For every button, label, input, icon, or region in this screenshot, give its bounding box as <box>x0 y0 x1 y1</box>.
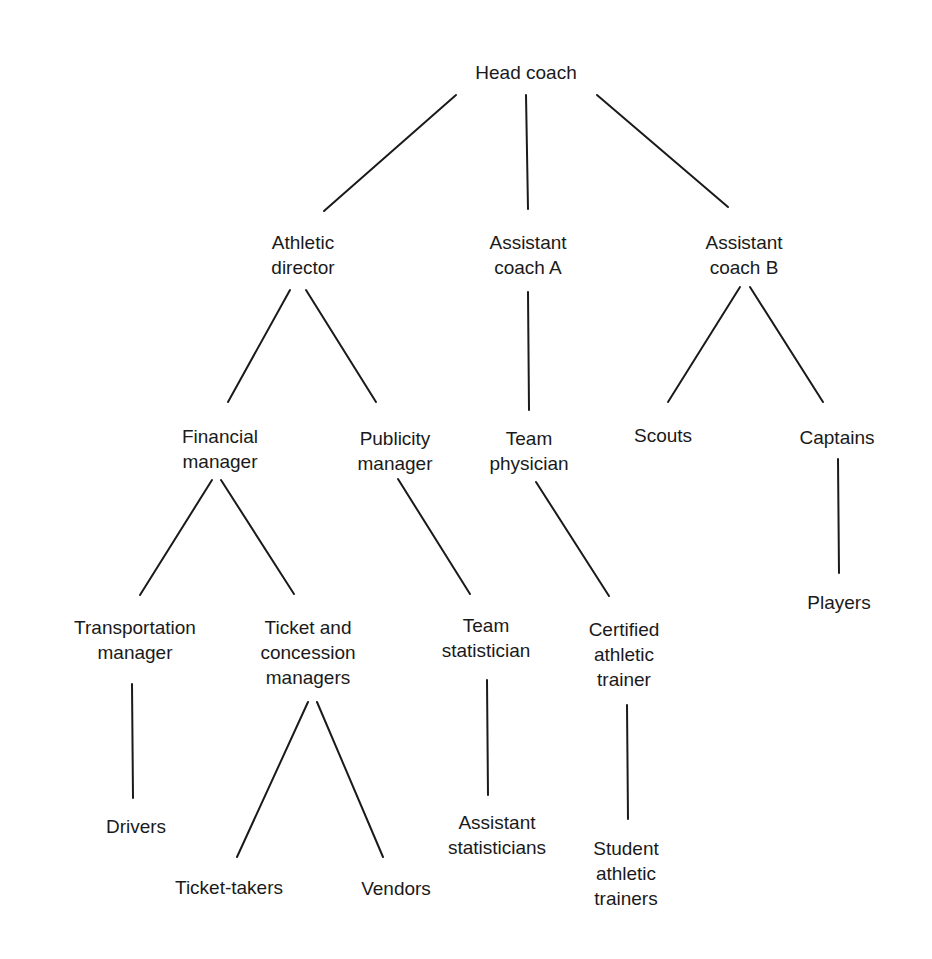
node-financial-manager: Financial manager <box>182 424 258 474</box>
node-label-line: manager <box>182 449 258 474</box>
node-label-line: manager <box>74 640 196 665</box>
node-assistant-coach-a: Assistant coach A <box>489 230 566 280</box>
node-label-line: Team <box>489 426 568 451</box>
node-label-line: physician <box>489 451 568 476</box>
edge-publicity_manager-to-team_statistician <box>398 479 470 594</box>
node-assistant-coach-b: Assistant coach B <box>705 230 782 280</box>
node-transportation-manager: Transportation manager <box>74 615 196 665</box>
node-label-line: manager <box>358 451 433 476</box>
edge-head_coach-to-assistant_coach_a <box>526 95 528 209</box>
node-label-line: Vendors <box>361 876 431 901</box>
edge-financial_manager-to-ticket_concession_managers <box>221 480 294 594</box>
node-label-line: Assistant <box>705 230 782 255</box>
node-label-line: Financial <box>182 424 258 449</box>
edge-head_coach-to-assistant_coach_b <box>597 95 728 207</box>
edge-athletic_director-to-publicity_manager <box>306 290 376 402</box>
node-vendors: Vendors <box>361 876 431 901</box>
node-label-line: Players <box>807 590 870 615</box>
node-label-line: managers <box>260 665 355 690</box>
org-chart: Head coach Athletic director Assistant c… <box>0 0 932 959</box>
edge-athletic_director-to-financial_manager <box>228 290 290 402</box>
node-certified-athletic-trainer: Certified athletic trainer <box>589 617 660 692</box>
node-label-line: Certified <box>589 617 660 642</box>
node-label-line: Head coach <box>475 60 576 85</box>
node-ticket-takers: Ticket-takers <box>175 875 283 900</box>
node-label-line: Ticket and <box>260 615 355 640</box>
edge-assistant_coach_b-to-captains <box>750 287 823 402</box>
node-label-line: statistician <box>442 638 531 663</box>
node-scouts: Scouts <box>634 423 692 448</box>
node-head-coach: Head coach <box>475 60 576 85</box>
node-label-line: Student <box>593 836 659 861</box>
node-label-line: Assistant <box>448 810 546 835</box>
edge-team_statistician-to-assistant_statisticians <box>487 680 488 795</box>
node-student-athletic-trainers: Student athletic trainers <box>593 836 659 911</box>
node-assistant-statisticians: Assistant statisticians <box>448 810 546 860</box>
node-label-line: Publicity <box>358 426 433 451</box>
edge-certified_athletic_trainer-to-student_athletic_trainers <box>627 705 628 819</box>
node-label-line: Drivers <box>106 814 166 839</box>
edge-transportation_manager-to-drivers <box>132 684 133 798</box>
edge-financial_manager-to-transportation_manager <box>140 480 212 595</box>
node-label-line: Assistant <box>489 230 566 255</box>
node-label-line: coach B <box>705 255 782 280</box>
node-label-line: coach A <box>489 255 566 280</box>
node-team-statistician: Team statistician <box>442 613 531 663</box>
node-captains: Captains <box>800 425 875 450</box>
node-label-line: Transportation <box>74 615 196 640</box>
edge-team_physician-to-certified_athletic_trainer <box>536 482 609 596</box>
node-label-line: Captains <box>800 425 875 450</box>
node-label-line: athletic <box>593 861 659 886</box>
node-ticket-concession-managers: Ticket and concession managers <box>260 615 355 690</box>
edge-captains-to-players <box>838 459 839 573</box>
node-label-line: statisticians <box>448 835 546 860</box>
node-drivers: Drivers <box>106 814 166 839</box>
node-label-line: director <box>271 255 334 280</box>
node-label-line: trainers <box>593 886 659 911</box>
node-label-line: Team <box>442 613 531 638</box>
node-label-line: concession <box>260 640 355 665</box>
edge-ticket_concession_managers-to-vendors <box>317 702 383 857</box>
node-label-line: Ticket-takers <box>175 875 283 900</box>
edge-head_coach-to-athletic_director <box>324 95 456 211</box>
edge-assistant_coach_a-to-team_physician <box>528 292 529 410</box>
node-label-line: Athletic <box>271 230 334 255</box>
node-team-physician: Team physician <box>489 426 568 476</box>
node-athletic-director: Athletic director <box>271 230 334 280</box>
node-label-line: Scouts <box>634 423 692 448</box>
edge-ticket_concession_managers-to-ticket_takers <box>237 702 308 857</box>
edge-assistant_coach_b-to-scouts <box>668 287 740 402</box>
node-label-line: trainer <box>589 667 660 692</box>
node-players: Players <box>807 590 870 615</box>
node-publicity-manager: Publicity manager <box>358 426 433 476</box>
node-label-line: athletic <box>589 642 660 667</box>
